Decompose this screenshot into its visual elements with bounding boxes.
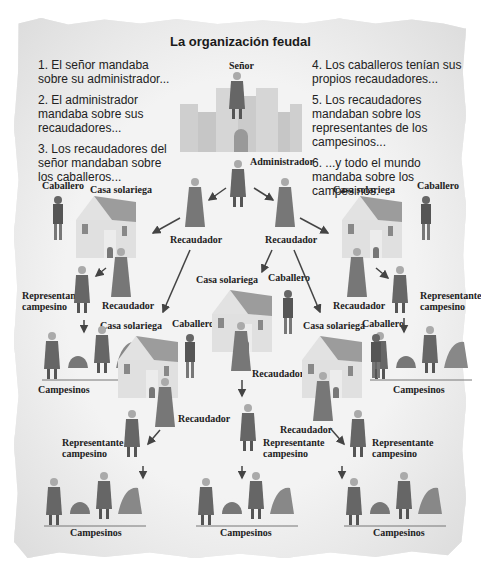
administrator-figure xyxy=(230,160,246,207)
peasants-group xyxy=(370,326,472,380)
knight-figure xyxy=(283,290,293,334)
manor-house-icon xyxy=(76,196,136,258)
peasant-rep-figure xyxy=(124,410,140,457)
peasant-rep-figure xyxy=(240,404,256,451)
peasant-rep-figure xyxy=(392,266,408,313)
peasants-group xyxy=(44,472,146,526)
diagram-graphics xyxy=(0,0,481,579)
knight-figure xyxy=(185,334,195,378)
manor-house-icon xyxy=(342,196,402,258)
peasants-group xyxy=(344,472,446,526)
recaudador-figure xyxy=(185,178,205,227)
peasant-rep-figure xyxy=(350,410,366,457)
recaudador-figure xyxy=(275,178,295,227)
peasants-group xyxy=(196,472,298,526)
knight-figure xyxy=(53,196,63,240)
knight-figure xyxy=(421,196,431,240)
peasant-rep-figure xyxy=(74,266,90,313)
manor-house-icon xyxy=(302,336,362,398)
